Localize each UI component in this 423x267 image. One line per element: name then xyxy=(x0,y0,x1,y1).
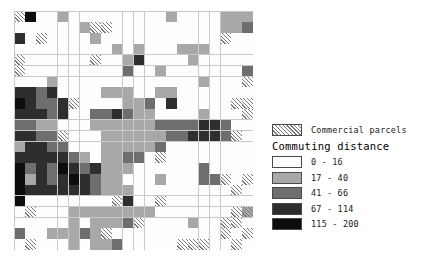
grid-cell xyxy=(242,239,252,249)
grid-cell xyxy=(80,142,90,152)
grid-cell xyxy=(231,174,241,184)
grid-cell xyxy=(69,207,79,217)
grid-cell xyxy=(231,163,241,173)
grid-cell xyxy=(242,12,252,22)
grid-cell xyxy=(36,207,46,217)
grid-cell xyxy=(134,66,144,76)
grid-cell xyxy=(101,55,111,65)
grid-cell xyxy=(69,152,79,162)
grid-cell xyxy=(36,98,46,108)
grid-cell xyxy=(199,174,209,184)
grid-cell xyxy=(101,228,111,238)
grid-cell xyxy=(15,44,25,54)
grid-cell xyxy=(112,98,122,108)
grid-cell xyxy=(36,174,46,184)
grid-cell xyxy=(242,55,252,65)
grid-cell xyxy=(221,163,231,173)
grid-cell xyxy=(15,228,25,238)
grid-cell xyxy=(242,77,252,87)
grid-cell xyxy=(210,228,220,238)
grid-cell xyxy=(58,87,68,97)
grid-cell xyxy=(58,196,68,206)
class-range-label: 67 - 114 xyxy=(311,204,354,214)
grid-cell xyxy=(188,66,198,76)
grid-cell xyxy=(199,87,209,97)
grid-cell xyxy=(69,109,79,119)
grid-cell xyxy=(199,142,209,152)
grid-cell xyxy=(134,109,144,119)
grid-cell xyxy=(242,207,252,217)
raster-grid-container xyxy=(14,11,253,250)
grid-cell xyxy=(123,152,133,162)
grid-cell xyxy=(134,218,144,228)
grid-cell xyxy=(155,196,165,206)
grid-cell xyxy=(36,142,46,152)
grid-cell xyxy=(145,120,155,130)
grid-cell xyxy=(25,142,35,152)
grid-cell xyxy=(188,185,198,195)
grid-cell xyxy=(134,55,144,65)
grid-cell xyxy=(25,239,35,249)
grid-cell xyxy=(221,185,231,195)
grid-cell xyxy=(90,131,100,141)
grid-cell xyxy=(210,33,220,43)
grid-cell xyxy=(221,142,231,152)
grid-cell xyxy=(101,196,111,206)
grid-cell xyxy=(69,196,79,206)
grid-cell xyxy=(221,98,231,108)
grid-cell xyxy=(155,109,165,119)
grid-cell xyxy=(134,239,144,249)
grid-cell xyxy=(69,185,79,195)
grid-cell xyxy=(155,55,165,65)
grid-cell xyxy=(166,152,176,162)
grid-cell xyxy=(221,12,231,22)
grid-cell xyxy=(210,22,220,32)
grid-cell xyxy=(134,77,144,87)
grid-cell xyxy=(221,228,231,238)
legend-row-class: 0 - 16 xyxy=(272,156,422,168)
grid-cell xyxy=(188,109,198,119)
grid-cell xyxy=(134,120,144,130)
grid-cell xyxy=(25,66,35,76)
grid-cell xyxy=(221,109,231,119)
grid-cell xyxy=(177,207,187,217)
commercial-parcels-swatch xyxy=(272,124,302,136)
grid-cell xyxy=(112,109,122,119)
grid-cell xyxy=(80,131,90,141)
grid-cell xyxy=(177,120,187,130)
grid-cell xyxy=(199,218,209,228)
class-range-label: 17 - 40 xyxy=(311,173,348,183)
grid-cell xyxy=(112,185,122,195)
grid-cell xyxy=(199,131,209,141)
grid-cell xyxy=(210,196,220,206)
grid-cell xyxy=(210,12,220,22)
grid-cell xyxy=(101,174,111,184)
grid-cell xyxy=(177,22,187,32)
grid-cell xyxy=(123,131,133,141)
grid-cell xyxy=(58,239,68,249)
grid-cell xyxy=(36,196,46,206)
grid-cell xyxy=(101,131,111,141)
legend-row-commercial: Commercial parcels xyxy=(272,124,422,136)
grid-cell xyxy=(155,152,165,162)
grid-cell xyxy=(123,207,133,217)
grid-cell xyxy=(199,120,209,130)
grid-cell xyxy=(177,44,187,54)
grid-cell xyxy=(134,33,144,43)
grid-cell xyxy=(112,152,122,162)
grid-cell xyxy=(242,152,252,162)
grid-cell xyxy=(47,66,57,76)
grid-cell xyxy=(69,66,79,76)
grid-cell xyxy=(80,120,90,130)
grid-cell xyxy=(231,98,241,108)
grid-cell xyxy=(134,174,144,184)
grid-cell xyxy=(101,44,111,54)
grid-cell xyxy=(155,22,165,32)
grid-cell xyxy=(210,163,220,173)
grid-cell xyxy=(36,87,46,97)
grid-cell xyxy=(166,66,176,76)
grid-cell xyxy=(80,174,90,184)
grid-cell xyxy=(58,131,68,141)
grid-cell xyxy=(242,228,252,238)
grid-cell xyxy=(210,131,220,141)
